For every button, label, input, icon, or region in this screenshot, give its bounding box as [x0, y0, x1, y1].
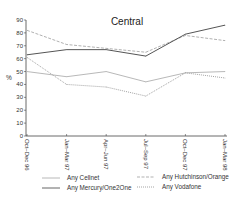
- y-axis-label: %: [6, 74, 12, 81]
- y-tick-label: 60: [16, 56, 23, 62]
- y-tick-label: 10: [16, 120, 23, 126]
- x-tick-label: Jul–Sep 97: [143, 139, 149, 170]
- data-point: [106, 48, 107, 49]
- y-tick-label: 70: [16, 43, 23, 49]
- data-point: [66, 84, 67, 85]
- data-point: [225, 40, 226, 41]
- legend-label: Any Hutchinson/Orange: [162, 173, 229, 181]
- y-tick-label: 30: [16, 94, 23, 100]
- series-line-any-hutchinson-orange: [27, 30, 225, 52]
- x-tick-label: Oct–Dec 97: [182, 139, 188, 171]
- x-tick-label: Oct–Dec 96: [24, 139, 30, 171]
- data-point: [145, 52, 146, 53]
- data-point: [66, 44, 67, 45]
- y-tick-label: 90: [16, 17, 23, 23]
- data-point: [27, 54, 28, 55]
- y-tick-label: 50: [16, 69, 23, 75]
- series-line-any-cellnet: [27, 72, 225, 82]
- data-point: [145, 56, 146, 57]
- data-point: [185, 35, 186, 36]
- data-point: [185, 72, 186, 73]
- data-point: [27, 71, 28, 72]
- data-point: [145, 81, 146, 82]
- data-point: [145, 96, 146, 97]
- data-point: [27, 30, 28, 31]
- data-point: [106, 49, 107, 50]
- y-tick-label: 20: [16, 107, 23, 113]
- y-tick-label: 0: [20, 133, 24, 139]
- legend-label: Any Cellnet: [67, 174, 99, 182]
- data-point: [66, 49, 67, 50]
- data-point: [225, 78, 226, 79]
- chart-title: Central: [111, 16, 143, 27]
- series-group: [27, 25, 226, 97]
- data-point: [225, 71, 226, 72]
- data-point: [66, 76, 67, 77]
- data-point: [225, 25, 226, 26]
- data-point: [185, 34, 186, 35]
- x-tick-label: Apr–Jun 97: [103, 139, 109, 170]
- data-point: [106, 71, 107, 72]
- series-line-any-mercury-one2one: [27, 25, 225, 56]
- legend-label: Any Vodafone: [162, 183, 202, 191]
- legend: Any CellnetAny Mercury/One2OneAny Hutchi…: [42, 173, 229, 192]
- legend-label: Any Mercury/One2One: [67, 184, 132, 192]
- x-tick-label: Jan–Mar 97: [64, 139, 70, 171]
- data-point: [27, 57, 28, 58]
- x-tick-label: Jan–Mar 98: [222, 139, 228, 171]
- line-chart: Central % 0102030405060708090Oct–Dec 96J…: [0, 0, 237, 207]
- data-point: [106, 87, 107, 88]
- axes: 0102030405060708090Oct–Dec 96Jan–Mar 97A…: [16, 17, 228, 171]
- y-tick-label: 40: [16, 81, 23, 87]
- y-tick-label: 80: [16, 30, 23, 36]
